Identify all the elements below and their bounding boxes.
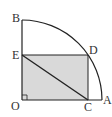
geometry-diagram: B E O C A D — [0, 0, 112, 117]
label-a: A — [103, 93, 112, 107]
label-c: C — [84, 100, 92, 114]
label-e: E — [12, 48, 19, 62]
label-d: D — [89, 43, 98, 57]
label-b: B — [12, 11, 20, 25]
label-o: O — [11, 99, 20, 113]
